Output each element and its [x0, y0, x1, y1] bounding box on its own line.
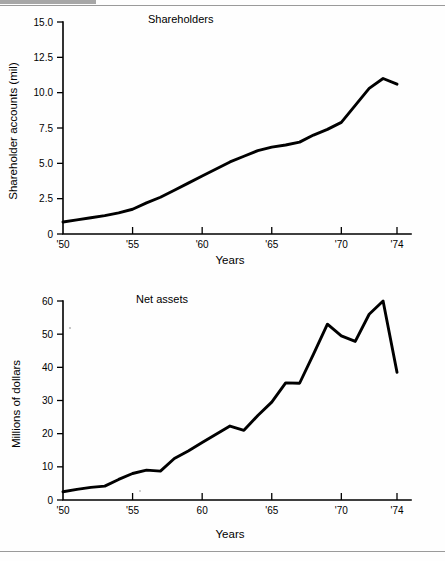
y-tick-label: 20 — [42, 428, 54, 439]
x-tick-label: '65 — [265, 505, 278, 516]
y-tick-label: 40 — [42, 362, 54, 373]
y-tick-label: 12.5 — [34, 52, 54, 63]
x-tick-label: '74 — [390, 505, 403, 516]
axis-lines — [63, 22, 411, 234]
y-tick-label: 60 — [42, 296, 54, 307]
chart-net-assets: 0102030405060'50'5560'65'70'74Net assets… — [0, 276, 445, 551]
y-tick-label: 0 — [47, 229, 53, 240]
y-tick-label: 15.0 — [34, 17, 54, 28]
axis-lines — [63, 301, 411, 500]
x-axis-title: Years — [216, 254, 245, 266]
y-tick-label: 7.5 — [39, 123, 53, 134]
y-tick-label: 10.0 — [34, 87, 54, 98]
y-tick-label: 5.0 — [39, 158, 53, 169]
x-tick-label: '50 — [56, 505, 69, 516]
y-tick-label: 2.5 — [39, 193, 53, 204]
x-tick-label: '50 — [56, 239, 69, 250]
x-tick-label: '70 — [335, 505, 348, 516]
x-tick-label: '65 — [265, 239, 278, 250]
figure-page: 02.55.07.510.012.515.0'50'55'60'65'70'74… — [0, 0, 445, 561]
x-tick-label: '60 — [196, 239, 209, 250]
x-tick-label: '70 — [335, 239, 348, 250]
y-tick-label: 0 — [47, 495, 53, 506]
y-tick-label: 30 — [42, 395, 54, 406]
chart-shareholders: 02.55.07.510.012.515.0'50'55'60'65'70'74… — [0, 6, 445, 268]
x-axis-title: Years — [216, 528, 245, 540]
plot-title: Net assets — [136, 293, 188, 305]
x-tick-label: '74 — [390, 239, 403, 250]
x-tick-label: '55 — [126, 505, 139, 516]
y-tick-label: 50 — [42, 329, 54, 340]
y-axis-title: Millions of dollars — [10, 360, 22, 448]
y-axis-title: Shareholder accounts (mil) — [7, 62, 19, 200]
plot-title: Shareholders — [148, 13, 214, 25]
x-tick-label: 60 — [197, 505, 209, 516]
bottom-rule — [0, 551, 445, 552]
scan-speck — [139, 490, 141, 492]
scan-speck — [69, 327, 71, 329]
data-series-line — [63, 301, 397, 492]
data-series-line — [63, 79, 397, 222]
y-tick-label: 10 — [42, 461, 54, 472]
x-tick-label: '55 — [126, 239, 139, 250]
scan-artifact — [0, 0, 96, 4]
